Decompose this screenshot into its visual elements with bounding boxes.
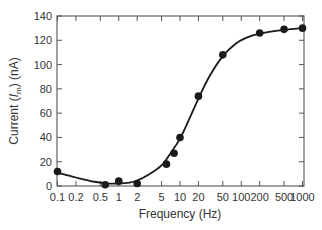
data-point-marker (115, 177, 123, 185)
data-point-marker (101, 181, 109, 189)
y-tick-label: 60 (40, 107, 52, 119)
x-tick-label: 0.2 (68, 191, 83, 203)
data-point-marker (256, 29, 264, 37)
x-tick-label: 10 (174, 191, 186, 203)
data-point-marker (195, 92, 203, 100)
x-tick-label: 2 (134, 191, 140, 203)
fit-curve (58, 28, 303, 184)
data-point-marker (133, 180, 141, 188)
data-point-marker (54, 168, 62, 176)
y-tick-label: 20 (40, 156, 52, 168)
frequency-current-chart: 020406080100120140 0.10.20.5125102050100… (0, 0, 322, 230)
x-tick-label: 1000 (290, 191, 314, 203)
x-tick-label: 200 (251, 191, 269, 203)
x-tick-label: 5 (158, 191, 164, 203)
data-point-marker (170, 149, 178, 157)
x-axis-title: Frequency (Hz) (139, 207, 222, 221)
x-tick-label: 0.5 (93, 191, 108, 203)
plot-frame (57, 16, 304, 186)
x-tick-label: 0.1 (50, 191, 65, 203)
y-tick-label: 140 (34, 10, 52, 22)
y-axis-title: Current (Im) (nA) (7, 57, 23, 144)
y-tick-label: 40 (40, 131, 52, 143)
data-point-marker (219, 51, 227, 59)
data-point-marker (280, 26, 288, 34)
x-tick-label: 50 (217, 191, 229, 203)
x-axis-ticks: 0.10.20.51251020501002005001000 (50, 16, 315, 203)
data-points (54, 24, 307, 188)
data-point-marker (176, 134, 184, 142)
x-tick-label: 1 (116, 191, 122, 203)
data-point-marker (163, 160, 171, 168)
x-tick-label: 20 (192, 191, 204, 203)
y-tick-label: 100 (34, 59, 52, 71)
x-tick-label: 100 (232, 191, 250, 203)
y-tick-label: 120 (34, 34, 52, 46)
y-tick-label: 80 (40, 83, 52, 95)
data-point-marker (299, 24, 307, 32)
